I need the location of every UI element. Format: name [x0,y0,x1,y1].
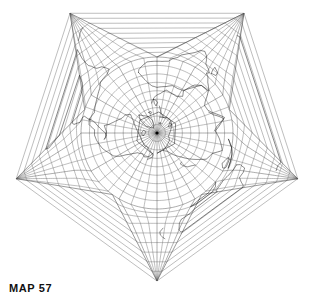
coastline-path [168,123,171,127]
graticule-path [16,133,157,179]
star-projection-map-figure: MAP 57 [0,0,315,292]
coastline-path [160,228,165,239]
map-caption: MAP 57 [9,283,52,292]
graticule-path [16,133,157,179]
star-map-canvas [0,0,315,292]
coastline-path [180,162,195,167]
coastline-path [191,183,216,207]
graticule-path [157,133,298,179]
coastline-path [46,50,109,150]
graticule-path [157,133,298,179]
coastline-path [211,67,217,75]
graticule-path [16,133,157,179]
graticule-path [157,133,298,179]
coastline-path [159,123,161,124]
north-pole-marker [155,131,158,134]
coastline-path [89,115,153,157]
graticule-path [157,133,298,179]
graticule-path [16,133,157,179]
graticule-group [16,13,298,281]
coastline-path [237,36,281,171]
